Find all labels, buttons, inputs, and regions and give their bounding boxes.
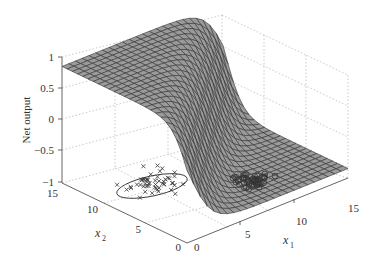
svg-text:x: x — [94, 226, 101, 240]
x2-tick: 5 — [136, 223, 142, 235]
z-axis-label: Net output — [20, 97, 32, 144]
svg-text:1: 1 — [290, 241, 294, 250]
x2-tick: 15 — [47, 187, 59, 199]
x1-tick: 0 — [194, 241, 200, 253]
decision-surface — [62, 18, 348, 213]
svg-text:x: x — [282, 233, 289, 247]
x2-tick: 10 — [87, 203, 99, 215]
z-tick: −0.5 — [34, 144, 54, 156]
class1-x-markers — [115, 164, 185, 200]
x2-axis-label: x 2 — [94, 226, 106, 243]
svg-text:2: 2 — [102, 234, 106, 243]
x1-axis-label: x 1 — [282, 233, 294, 250]
x1-tick: 5 — [245, 228, 251, 240]
x1-tick: 15 — [348, 202, 360, 214]
z-tick: 0 — [49, 113, 55, 125]
x1-tick: 10 — [296, 215, 308, 227]
z-tick: 0.5 — [40, 82, 54, 94]
surface-plot: 1 0.5 0 −0.5 −1 15 10 5 0 0 5 10 15 Net … — [0, 0, 378, 266]
z-tick: 1 — [49, 51, 55, 63]
class1-ellipse — [115, 169, 190, 204]
x2-tick-labels: 15 10 5 0 — [47, 187, 182, 253]
chart-container: 1 0.5 0 −0.5 −1 15 10 5 0 0 5 10 15 Net … — [0, 0, 378, 266]
x2-tick: 0 — [176, 241, 182, 253]
z-tick-labels: 1 0.5 0 −0.5 −1 — [34, 51, 54, 188]
